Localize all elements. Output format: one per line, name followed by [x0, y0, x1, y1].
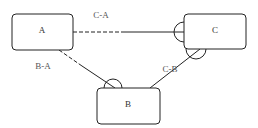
edge-c-b-label: C-B: [162, 64, 177, 74]
node-c-label: C: [212, 25, 218, 35]
node-a-label: A: [39, 25, 46, 35]
edge-b-a-solid-segment: [82, 66, 115, 88]
node-a[interactable]: A: [12, 14, 73, 50]
edge-b-a-label: B-A: [35, 61, 51, 71]
edge-b-a-dashed-segment: [59, 50, 82, 66]
node-c[interactable]: C: [184, 14, 246, 49]
diagram-canvas: A C B C-A B-A C-B: [0, 0, 258, 128]
node-b[interactable]: B: [97, 88, 160, 124]
edge-c-a-label: C-A: [93, 10, 109, 20]
node-b-label: B: [125, 99, 131, 109]
